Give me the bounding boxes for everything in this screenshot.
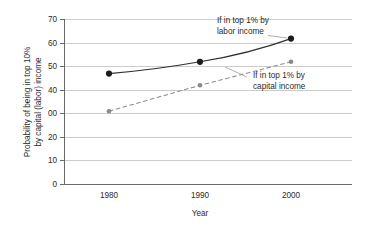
capital-point-1990: [198, 83, 203, 88]
y-tick-label-30: 00: [48, 109, 58, 118]
annotation-labor-line-2: labor income: [217, 27, 264, 36]
annotation-labor-line-1: If in top 1% by: [217, 16, 270, 25]
y-tick-label-50: 50: [48, 62, 58, 71]
y-axis-title-line-2: by capital (labor) income: [34, 57, 43, 147]
y-tick-label-10: 10: [48, 156, 58, 165]
y-tick-label-40: 40: [48, 86, 58, 95]
x-tick-label-1990: 1990: [191, 191, 210, 200]
y-tick-label-0: 0: [52, 180, 57, 189]
annotation-capital: If in top 1% by capital income: [225, 67, 306, 91]
y-tick-label-60: 60: [48, 39, 58, 48]
annotation-labor-leader: [268, 36, 287, 39]
labor-point-1980: [106, 71, 112, 77]
annotation-capital-line-1: If in top 1% by: [253, 71, 306, 80]
x-tick-labels: 1980 1990 2000: [100, 191, 301, 200]
y-tick-labels: 70 60 50 40 00 20 10 0: [48, 15, 58, 189]
line-chart: 70 60 50 40 00 20 10 0 Probability of be…: [0, 0, 369, 242]
y-tick-marks: [60, 20, 64, 185]
annotation-capital-line-2: capital income: [253, 82, 306, 91]
capital-point-1980: [107, 109, 112, 114]
gridlines: [64, 20, 352, 161]
y-axis-title-line-1: Probability of being in top 10%: [23, 47, 32, 158]
x-axis-title: Year: [192, 209, 209, 218]
chart-figure: 70 60 50 40 00 20 10 0 Probability of be…: [0, 0, 369, 242]
labor-point-1990: [197, 59, 203, 65]
x-tick-label-2000: 2000: [282, 191, 301, 200]
labor-point-2000: [288, 36, 294, 42]
y-tick-label-70: 70: [48, 15, 58, 24]
capital-point-2000: [289, 60, 294, 65]
y-axis-title: Probability of being in top 10% by capit…: [23, 47, 43, 158]
y-tick-label-20: 20: [48, 133, 58, 142]
x-tick-label-1980: 1980: [100, 191, 119, 200]
axes: [64, 19, 352, 185]
